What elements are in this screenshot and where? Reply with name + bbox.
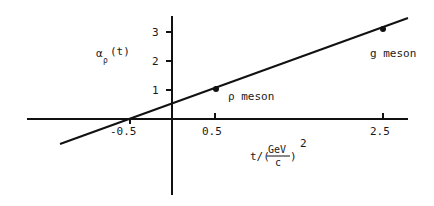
y-axis-label-main: α xyxy=(96,47,103,60)
x-tick-label-neg0.5: -0.5 xyxy=(110,125,137,138)
x-axis-label-exponent: 2 xyxy=(300,137,307,150)
trajectory-line xyxy=(60,18,408,144)
rho-meson-label: ρ meson xyxy=(228,90,274,103)
x-axis-label-prefix: t/( xyxy=(250,150,270,163)
y-axis-label-arg: (t) xyxy=(110,45,130,58)
y-tick-label-1: 1 xyxy=(152,84,159,97)
g-meson-label: g meson xyxy=(370,47,416,60)
y-tick-label-2: 2 xyxy=(152,55,159,68)
x-axis-label-numerator: GeV xyxy=(268,144,286,155)
rho-meson-point xyxy=(213,86,219,92)
x-axis-label-suffix: ) xyxy=(290,150,297,163)
x-tick-label-2.5: 2.5 xyxy=(370,125,390,138)
x-tick-label-0.5: 0.5 xyxy=(202,125,222,138)
y-axis-label-sub: ρ xyxy=(103,56,108,65)
y-tick-label-3: 3 xyxy=(152,26,159,39)
x-axis-label-denominator: c xyxy=(275,157,281,168)
regge-trajectory-chart: 3 2 1 -0.5 0.5 2.5 ρ meson g meson α ρ (… xyxy=(0,0,434,206)
g-meson-point xyxy=(380,26,386,32)
